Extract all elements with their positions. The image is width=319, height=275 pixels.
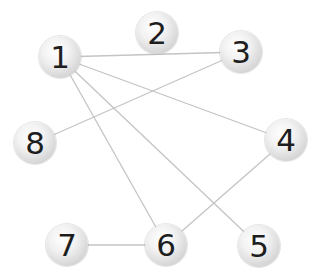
node-5: 5 <box>238 225 280 267</box>
node-label: 1 <box>50 42 70 73</box>
node-4: 4 <box>265 119 307 161</box>
node-label: 8 <box>25 128 45 159</box>
node-7: 7 <box>46 224 88 266</box>
node-label: 6 <box>156 230 176 261</box>
node-8: 8 <box>14 122 56 164</box>
node-label: 7 <box>57 230 77 261</box>
node-6: 6 <box>145 224 187 266</box>
node-label: 5 <box>249 231 269 262</box>
node-2: 2 <box>136 12 178 54</box>
node-label: 3 <box>231 37 251 68</box>
edge-1-6 <box>60 57 166 245</box>
node-3: 3 <box>220 31 262 73</box>
node-1: 1 <box>39 36 81 78</box>
node-label: 4 <box>276 125 296 156</box>
edge-1-5 <box>60 57 259 246</box>
node-label: 2 <box>147 18 167 49</box>
